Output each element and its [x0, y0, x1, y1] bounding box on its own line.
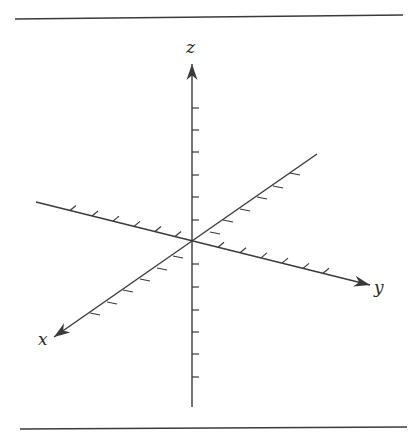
y-axis-label: y [373, 277, 384, 297]
x-axis-tick [140, 279, 150, 281]
x-axis-tick [210, 232, 220, 234]
y-axis-tick [175, 232, 181, 237]
x-axis-tick [273, 186, 283, 188]
y-axis-line [36, 202, 370, 285]
x-arrowhead-icon [54, 323, 70, 337]
top-rule [15, 15, 403, 19]
y-axis [36, 202, 370, 286]
y-axis-tick [323, 268, 329, 273]
y-axis-tick [155, 227, 161, 232]
y-axis-tick [70, 205, 76, 210]
y-axis-tick [218, 242, 224, 247]
bottom-rule [20, 427, 407, 429]
y-axis-tick [240, 248, 246, 253]
x-axis-tick [90, 313, 100, 315]
y-axis-tick [113, 216, 119, 221]
x-axis-tick [257, 197, 267, 199]
x-axis [54, 154, 317, 337]
axes-diagram: z y x [0, 0, 414, 438]
x-axis-tick [123, 290, 133, 292]
x-axis-line [54, 154, 317, 337]
x-axis-tick [173, 256, 183, 258]
z-axis [187, 64, 200, 407]
y-axis-tick [282, 258, 288, 263]
x-axis-label: x [38, 329, 48, 349]
x-axis-tick [240, 209, 250, 211]
z-axis-label: z [185, 37, 196, 57]
y-axis-tick [261, 253, 267, 258]
y-axis-tick [92, 211, 98, 216]
x-axis-tick [223, 220, 233, 222]
x-axis-tick [107, 302, 117, 304]
x-axis-tick [290, 173, 300, 175]
y-axis-tick [134, 221, 140, 226]
x-axis-tick [157, 268, 167, 270]
y-axis-tick [303, 263, 309, 268]
